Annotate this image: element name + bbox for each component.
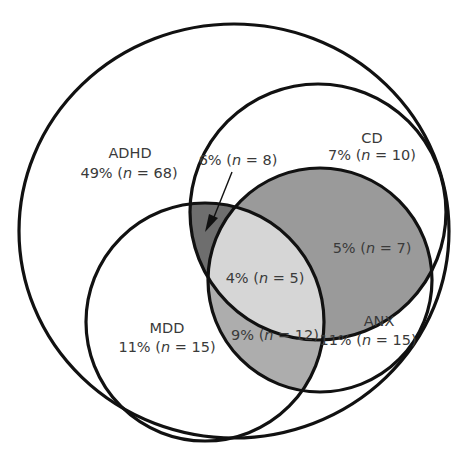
label-adhd-cd-mdd: 6% (n = 8): [199, 152, 278, 168]
label-cd-value: 7% (n = 10): [328, 147, 416, 163]
label-all-four: 4% (n = 5): [226, 270, 305, 286]
label-mdd-name: MDD: [150, 320, 185, 336]
label-mdd-value: 11% (n = 15): [118, 339, 215, 355]
label-cd: CD 7% (n = 10): [328, 130, 416, 163]
venn-diagram: ADHD 49% (n = 68) CD 7% (n = 10) 6% (n =…: [0, 0, 464, 454]
venn-canvas: ADHD 49% (n = 68) CD 7% (n = 10) 6% (n =…: [0, 0, 464, 454]
label-adhd-cd-anx-value: 5% (n = 7): [333, 240, 412, 256]
label-adhd-cd-anx: 5% (n = 7): [333, 240, 412, 256]
label-cd-name: CD: [361, 130, 382, 146]
label-adhd-mdd-anx: 9% (n = 12): [231, 327, 319, 343]
label-adhd-cd-mdd-value: 6% (n = 8): [199, 152, 278, 168]
label-adhd-value: 49% (n = 68): [80, 165, 177, 181]
label-adhd-name: ADHD: [108, 145, 151, 161]
label-anx-value: 11% (n = 15): [319, 332, 416, 348]
label-all-four-value: 4% (n = 5): [226, 270, 305, 286]
label-adhd-mdd-anx-value: 9% (n = 12): [231, 327, 319, 343]
label-adhd: ADHD 49% (n = 68): [80, 145, 177, 181]
label-anx-name: ANX: [364, 313, 395, 329]
label-mdd: MDD 11% (n = 15): [118, 320, 215, 355]
